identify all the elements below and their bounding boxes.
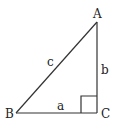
vertex-label-c: C: [101, 107, 110, 121]
side-label-a: a: [57, 99, 64, 113]
vertex-label-b: B: [5, 107, 14, 121]
side-label-b: b: [101, 63, 109, 77]
side-label-c: c: [47, 55, 54, 69]
right-triangle-diagram: A B C c b a: [0, 0, 114, 123]
vertex-label-a: A: [92, 7, 102, 21]
right-angle-marker: [81, 96, 97, 113]
